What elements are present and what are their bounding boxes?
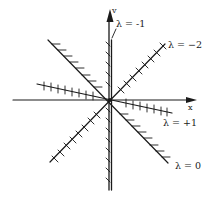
isocline-diagram: v x λ = -1 λ = −2 λ = +1 λ = 0	[0, 0, 210, 197]
label-lambda-minus-1: λ = -1	[116, 19, 145, 29]
x-axis-label: x	[188, 104, 193, 112]
label-lambda-zero: λ = 0	[175, 161, 201, 171]
label-lambda-minus-2: λ = −2	[168, 40, 202, 50]
label-lambda-plus-1: λ = +1	[163, 118, 197, 128]
v-axis-label: v	[112, 7, 117, 15]
isocline-lambda-plus-1	[37, 82, 172, 116]
isocline-lambda-minus-2	[50, 43, 166, 162]
origin-point	[108, 98, 112, 102]
